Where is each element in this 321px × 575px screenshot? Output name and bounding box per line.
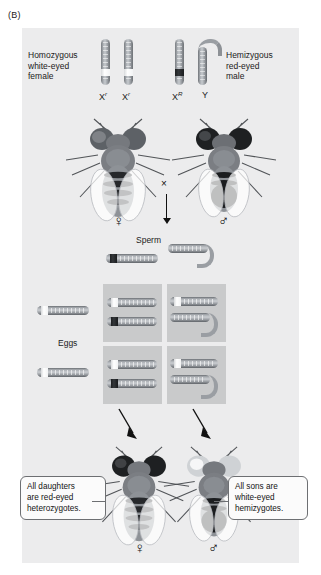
chromosome-banding [172, 246, 202, 251]
chromosome-banding [121, 319, 154, 324]
son-arrow [190, 407, 220, 443]
eggs-label: Eggs [58, 338, 77, 348]
offspring-chromosome-x-r [107, 360, 157, 369]
son-sex-symbol: ♂ [208, 540, 219, 555]
son-callout-leader [214, 501, 228, 502]
chromosome-x-r-female-1 [101, 39, 110, 85]
offspring-chromosome-x-R [107, 379, 157, 388]
chromosome-y-male [198, 39, 224, 85]
offspring-chromosome-x-r [170, 297, 218, 306]
allele-band-white [111, 298, 118, 307]
cross-symbol: × [161, 178, 167, 189]
allele-band-white [41, 306, 48, 315]
chromosome-banding [51, 308, 86, 313]
chromosome-banding [174, 377, 206, 382]
allele-band-white [41, 368, 48, 377]
allele-band-dark [110, 254, 117, 263]
chromosome-banding [174, 315, 206, 320]
offspring-chromosome-x-r [107, 298, 157, 307]
allele-band-white [174, 359, 181, 368]
egg-gamete-x-r-1 [37, 306, 89, 315]
chromosome-x-r-female-2 [124, 39, 133, 85]
daughter-callout-leader [92, 501, 106, 502]
offspring-chromosome-x-R [107, 317, 157, 326]
chromosome-banding [184, 299, 215, 304]
figure-panel: Homozygous white-eyed female Hemizygous … [22, 28, 299, 563]
allele-band-white [101, 69, 110, 76]
chromosome-banding [177, 42, 182, 82]
chromosome-banding [121, 300, 154, 305]
label-x-r-female-2: Xr [122, 90, 130, 102]
sperm-gamete-y [168, 244, 214, 270]
allele-band-dark [111, 317, 118, 326]
punnett-cell-0-0 [103, 284, 162, 342]
cross-arrow-head [163, 218, 171, 224]
daughter-arrow [116, 407, 146, 443]
chromosome-x-R-male [175, 39, 184, 85]
chromosome-banding [126, 42, 131, 82]
chromosome-banding [121, 362, 154, 367]
female-parent-description: Homozygous white-eyed female [28, 50, 94, 82]
punnett-cell-1-0 [103, 346, 162, 404]
label-x-R-male: XR [172, 90, 182, 102]
punnett-cell-0-1 [167, 284, 226, 342]
cross-arrow-shaft [166, 194, 167, 220]
chromosome-banding [103, 42, 108, 82]
sperm-label: Sperm [136, 235, 161, 245]
daughter-sex-symbol: ♀ [134, 540, 145, 555]
label-x-r-female-1: Xr [99, 90, 107, 102]
chromosome-banding [120, 256, 155, 261]
son-callout: All sons are white-eyed hemizygotes. [228, 476, 308, 520]
allele-band-dark [175, 69, 184, 76]
chromosome-banding [51, 370, 86, 375]
panel-label: (B) [8, 10, 21, 20]
parent-male-fly [170, 113, 278, 225]
punnett-cell-1-1 [167, 346, 226, 404]
allele-band-dark [111, 379, 118, 388]
male-parent-description: Hemizygous red-eyed male [226, 50, 296, 82]
female-sex-symbol: ♀ [113, 213, 124, 228]
offspring-chromosome-y [170, 313, 218, 339]
sperm-gamete-x-R [106, 254, 158, 263]
allele-band-white [111, 360, 118, 369]
chromosome-banding [184, 361, 215, 366]
allele-band-white [124, 69, 133, 76]
male-sex-symbol: ♂ [218, 213, 229, 228]
chromosome-banding [121, 381, 154, 386]
egg-gamete-x-r-2 [37, 368, 89, 377]
chromosome-banding [200, 51, 205, 81]
punnett-square [103, 284, 226, 404]
offspring-chromosome-x-r [170, 359, 218, 368]
label-y-male: Y [202, 90, 208, 100]
daughter-callout: All daughters are red-eyed heterozygotes… [20, 476, 106, 520]
offspring-chromosome-y [170, 375, 218, 401]
parent-female-fly [64, 113, 172, 225]
allele-band-white [174, 297, 181, 306]
